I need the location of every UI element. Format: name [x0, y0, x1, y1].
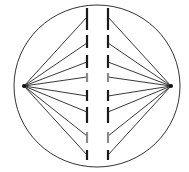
spindle-fiber — [24, 86, 87, 112]
spindle-fiber — [108, 77, 171, 86]
spindle-fiber — [108, 43, 171, 86]
spindle-fiber — [108, 86, 171, 112]
spindle-fiber — [108, 62, 171, 86]
spindle-fiber — [24, 62, 87, 86]
cell-membrane — [14, 5, 180, 167]
spindle-fiber — [108, 17, 171, 86]
left-spindle-pole — [22, 84, 26, 88]
right-spindle-pole — [169, 84, 173, 88]
spindle-fiber — [108, 86, 171, 136]
spindle-fiber — [24, 86, 87, 96]
spindle-fiber — [108, 86, 171, 96]
spindle-fibers-left — [24, 17, 87, 155]
mitosis-diagram — [0, 0, 189, 172]
spindle-fiber — [24, 86, 87, 155]
spindle-fiber — [24, 17, 87, 86]
mitosis-anaphase-illustration — [0, 0, 189, 172]
spindle-fiber — [108, 86, 171, 155]
spindle-fibers-right — [108, 17, 171, 155]
spindle-fiber — [24, 86, 87, 136]
spindle-fiber — [24, 43, 87, 86]
spindle-fiber — [24, 77, 87, 86]
